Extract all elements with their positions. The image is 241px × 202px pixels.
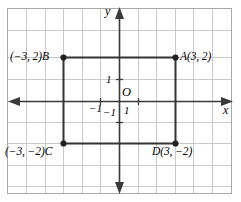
- tick-label-x-positive-one: 1: [124, 105, 130, 116]
- point-b-dot: [60, 54, 66, 60]
- plot-canvas: [0, 0, 241, 202]
- tick-label-y-positive-one: 1: [106, 74, 112, 85]
- coordinate-plane-figure: (−3, 2)B A(3, 2) (−3, −2)C D(3, −2) 1 −1…: [0, 0, 241, 202]
- tick-label-y-negative-one: −1: [103, 107, 116, 118]
- origin-label: O: [122, 86, 131, 99]
- point-label-c: (−3, −2)C: [5, 146, 52, 158]
- point-label-d: D(3, −2): [152, 146, 192, 158]
- point-c-dot: [60, 140, 66, 146]
- tick-label-x-negative-one: −1: [89, 103, 102, 114]
- y-axis-label: y: [105, 5, 110, 17]
- point-label-a: A(3, 2): [180, 51, 211, 63]
- x-axis-label: x: [223, 104, 228, 116]
- point-a-dot: [172, 54, 178, 60]
- point-label-b: (−3, 2)B: [10, 51, 49, 63]
